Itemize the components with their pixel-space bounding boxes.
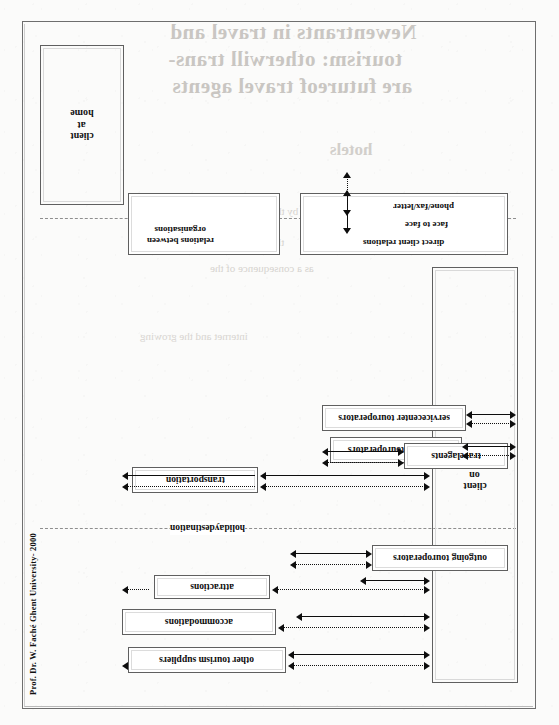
legend-relations-between-organisations: relations between organisations: [128, 193, 280, 255]
arrow-incoming-touroperators-facetoface: [462, 442, 516, 451]
arrow-travelagents-facetoface: [322, 447, 404, 456]
legend-face-to-face-label: face to face: [405, 220, 448, 230]
author-credit: Prof. Dr. W. Faché Ghent University- 200…: [28, 533, 38, 695]
client-at-home-label: client at home: [70, 108, 93, 143]
arrow-servicecenter-touroperators-phone: [466, 419, 516, 428]
arrow-incoming-touroperators-phone: [462, 451, 516, 460]
arrow-other-suppliers-facetoface: [288, 650, 430, 659]
entity-box-servicecenter-touroperators[interactable]: servicecenter touroperators: [322, 405, 466, 431]
arrow-accommodations-phone: [278, 623, 430, 632]
arrow-transportation-facetoface: [260, 471, 430, 480]
arrow-travelagents-phone: [322, 458, 404, 467]
arrow-other-suppliers-upper-phone: [122, 661, 128, 670]
scanned-page: Newentrants in travel and tourism: other…: [0, 0, 559, 725]
arrow-other-suppliers-phone: [288, 661, 430, 670]
arrow-transportation-upper-facetoface: [122, 471, 260, 480]
legend-phone-fax-letter-arrow-icon: [343, 172, 352, 216]
region-label-holidaydestination: holidaydestination: [170, 521, 245, 535]
entity-label-servicecenter-touroperators: servicecenter touroperators: [323, 406, 465, 430]
client-at-home-box: client at home: [40, 45, 124, 205]
arrow-outgoing-touroperators-phone: [290, 560, 372, 569]
arrow-accommodations-facetoface: [296, 612, 430, 621]
legend-organisations-title: relations between organisations: [147, 224, 214, 247]
entity-box-outgoing-touroperators[interactable]: outgoing touroperators: [372, 545, 508, 571]
arrow-attractions-phone: [272, 585, 430, 594]
arrow-servicecenter-touroperators-facetoface: [466, 410, 516, 419]
legend-direct-title: direct client relations: [363, 238, 444, 248]
client-on-holiday-box: client on holiday: [432, 267, 518, 683]
entity-box-other-tourism-suppliers[interactable]: other tourism suppliers: [128, 647, 286, 673]
arrow-transportation-phone: [260, 482, 430, 491]
arrow-transportation-upper-phone: [122, 482, 260, 491]
entity-label-other-tourism-suppliers: other tourism suppliers: [129, 648, 285, 672]
legend-direct-client-relations: direct client relations face to face pho…: [300, 193, 508, 255]
diagram-sheet: Prof. Dr. W. Faché Ghent University- 200…: [0, 0, 559, 725]
arrow-attractions-facetoface: [360, 576, 430, 585]
entity-label-attractions: attractions: [155, 576, 269, 598]
arrow-attractions-upper-phone: [122, 585, 154, 594]
arrow-outgoing-touroperators-facetoface: [290, 549, 372, 558]
entity-label-outgoing-touroperators: outgoing touroperators: [373, 546, 507, 570]
entity-box-accommodations[interactable]: accommodations: [122, 609, 276, 635]
entity-label-accommodations: accommodations: [123, 610, 275, 634]
entity-box-attractions[interactable]: attractions: [154, 575, 270, 599]
legend-phone-fax-letter-label: phone/fax/letter: [393, 202, 454, 212]
